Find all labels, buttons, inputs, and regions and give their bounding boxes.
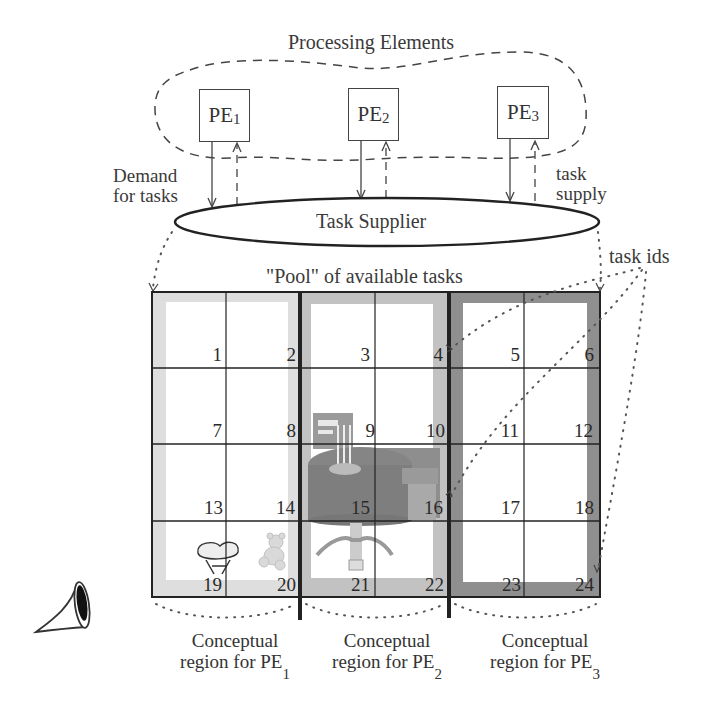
region-subscript: 1 [282, 666, 290, 682]
pe-label: PE [357, 102, 382, 127]
task-id-24: 24 [554, 574, 594, 596]
task-id-15: 15 [330, 497, 370, 519]
region-label-line1: Conceptual [160, 630, 310, 651]
task-id-14: 14 [255, 497, 295, 519]
region-label-line1: Conceptual [312, 630, 462, 651]
pe-subscript: 1 [233, 111, 241, 128]
region-subscript: 3 [592, 666, 600, 682]
task-id-4: 4 [403, 344, 443, 366]
pe-box-2: PE2 [348, 88, 399, 141]
pe-box-1: PE1 [199, 89, 250, 142]
demand-label-line2: for tasks [113, 186, 178, 205]
task-id-13: 13 [183, 497, 223, 519]
supply-label-line2: supply [556, 184, 607, 203]
task-id-23: 23 [481, 574, 521, 596]
demand-arrows [208, 139, 514, 207]
task-id-5: 5 [480, 344, 520, 366]
task-ids-label: task ids [609, 246, 670, 266]
region-label-line2: region for PE [180, 651, 282, 672]
task-id-8: 8 [256, 420, 296, 442]
task-id-19: 19 [182, 574, 222, 596]
region-braces [156, 604, 596, 618]
demand-label-line1: Demand [113, 166, 177, 185]
task-id-12: 12 [553, 420, 593, 442]
region-label-line1: Conceptual [470, 630, 620, 651]
pe-subscript: 2 [382, 110, 390, 127]
task-id-9: 9 [335, 420, 375, 442]
supply-arrows [233, 141, 539, 205]
task-id-11: 11 [479, 420, 519, 442]
region-label-line2: region for PE [332, 651, 434, 672]
task-supplier-label: Task Supplier [316, 211, 426, 231]
task-id-3: 3 [330, 344, 370, 366]
pe-box-3: PE3 [497, 86, 549, 139]
task-id-20: 20 [256, 574, 296, 596]
task-id-21: 21 [330, 574, 370, 596]
task-id-18: 18 [554, 497, 594, 519]
task-id-16: 16 [403, 497, 443, 519]
horn-icon [36, 581, 92, 632]
task-id-17: 17 [480, 497, 520, 519]
region-label-pe3: Conceptual region for PE3 [470, 630, 620, 679]
task-id-1: 1 [182, 344, 222, 366]
pool-label: "Pool" of available tasks [266, 266, 463, 286]
task-id-7: 7 [182, 420, 222, 442]
region-label-pe1: Conceptual region for PE1 [160, 630, 310, 679]
region-subscript: 2 [434, 666, 442, 682]
task-id-10: 10 [405, 420, 445, 442]
pe-label: PE [507, 100, 532, 125]
supply-label-line1: task [556, 164, 587, 183]
task-id-22: 22 [404, 574, 444, 596]
processing-elements-title: Processing Elements [288, 32, 454, 52]
pe-label: PE [208, 103, 233, 128]
region-label-pe2: Conceptual region for PE2 [312, 630, 462, 679]
task-id-2: 2 [256, 344, 296, 366]
pe-subscript: 3 [532, 108, 540, 125]
task-id-6: 6 [554, 344, 594, 366]
region-label-line2: region for PE [490, 651, 592, 672]
